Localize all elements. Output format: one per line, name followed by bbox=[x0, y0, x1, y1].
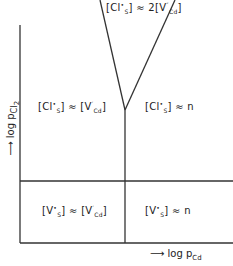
v-left-boundary bbox=[100, 0, 125, 110]
region-label-top: [Cl•S] ≈ 2[V″Cd] bbox=[106, 1, 182, 15]
region-label-lower-left: [V•S] ≈ [V′Cd] bbox=[42, 204, 107, 218]
region-label-upper-right: [Cl•S] ≈ n bbox=[145, 100, 194, 114]
region-label-upper-left: [Cl•S] ≈ [V′Cd] bbox=[38, 100, 106, 114]
v-right-boundary bbox=[125, 0, 175, 110]
diagram-lines bbox=[0, 0, 233, 266]
arrow-icon: ⟶ bbox=[5, 141, 16, 155]
x-axis-label: ⟶ log pCd bbox=[150, 248, 202, 262]
region-label-lower-right: [V•S] ≈ n bbox=[145, 204, 191, 218]
y-axis-label: ⟶ log pCl2 bbox=[5, 93, 22, 163]
arrow-icon: ⟶ bbox=[150, 248, 164, 259]
